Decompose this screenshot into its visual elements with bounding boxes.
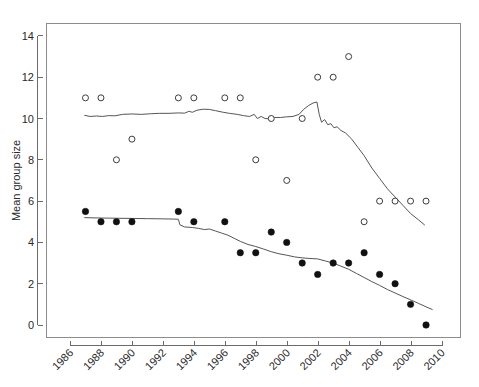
x-axis: 1986198819901992199419961998200020022004… — [50, 341, 447, 373]
data-point-open — [253, 157, 259, 163]
data-point-open — [377, 198, 383, 204]
data-point-filled — [284, 239, 290, 245]
y-axis-tick-label: 6 — [28, 195, 34, 207]
lower-trend-line — [85, 218, 433, 310]
data-point-open — [299, 116, 305, 122]
data-points — [82, 54, 429, 329]
data-point-open — [129, 136, 135, 142]
y-axis-tick-label: 14 — [22, 30, 34, 42]
x-axis-tick-label: 1996 — [204, 346, 230, 372]
x-axis-tick-label: 2004 — [328, 346, 354, 372]
x-axis-tick-label: 2000 — [266, 346, 292, 372]
y-axis-tick-label: 2 — [28, 278, 34, 290]
x-axis-tick-label: 2010 — [421, 346, 447, 372]
data-point-filled — [299, 260, 305, 266]
data-point-filled — [376, 271, 382, 277]
plot-panel-rect — [47, 24, 461, 338]
data-point-filled — [175, 208, 181, 214]
data-point-open — [284, 177, 290, 183]
data-point-open — [361, 219, 367, 225]
data-point-filled — [253, 250, 259, 256]
data-point-filled — [268, 229, 274, 235]
data-point-filled — [237, 250, 243, 256]
x-axis-tick-label: 1998 — [235, 346, 261, 372]
upper-trend-line — [85, 102, 425, 225]
data-point-open — [113, 157, 119, 163]
plot-panel-border — [47, 24, 461, 338]
y-axis-tick-label: 12 — [22, 71, 34, 83]
data-point-filled — [423, 322, 429, 328]
data-point-filled — [361, 250, 367, 256]
data-point-filled — [129, 219, 135, 225]
data-point-open — [408, 198, 414, 204]
data-point-filled — [98, 219, 104, 225]
data-point-open — [222, 95, 228, 101]
x-axis-tick-label: 2002 — [297, 346, 323, 372]
x-axis-tick-label: 1994 — [173, 346, 199, 372]
data-point-open — [423, 198, 429, 204]
data-point-open — [346, 54, 352, 60]
data-point-open — [392, 198, 398, 204]
y-axis-tick-label: 0 — [28, 319, 34, 331]
y-axis-title: Mean group size — [10, 140, 22, 221]
x-axis-tick-label: 2008 — [390, 346, 416, 372]
data-point-filled — [222, 219, 228, 225]
x-axis-tick-label: 1986 — [50, 346, 76, 372]
y-axis: 02468101214 — [22, 30, 43, 331]
y-axis-tick-label: 8 — [28, 154, 34, 166]
x-axis-tick-label: 1988 — [81, 346, 107, 372]
data-point-open — [315, 74, 321, 80]
x-axis-tick-label: 2006 — [359, 346, 385, 372]
data-point-open — [330, 74, 336, 80]
data-point-filled — [392, 281, 398, 287]
x-axis-tick-label: 1992 — [142, 346, 168, 372]
y-axis-tick-label: 4 — [28, 236, 34, 248]
data-point-filled — [314, 271, 320, 277]
data-point-open — [82, 95, 88, 101]
y-axis-tick-label: 10 — [22, 113, 34, 125]
data-point-open — [237, 95, 243, 101]
data-point-filled — [345, 260, 351, 266]
scatter-plot-svg: 02468101214 1986198819901992199419961998… — [0, 0, 479, 387]
data-point-open — [191, 95, 197, 101]
data-point-filled — [82, 208, 88, 214]
data-point-open — [268, 116, 274, 122]
data-point-filled — [113, 219, 119, 225]
x-axis-tick-label: 1990 — [112, 346, 138, 372]
trend-lines — [85, 102, 433, 310]
data-point-filled — [330, 260, 336, 266]
data-point-open — [98, 95, 104, 101]
data-point-open — [175, 95, 181, 101]
y-axis-title-text: Mean group size — [10, 140, 22, 221]
data-point-filled — [407, 301, 413, 307]
data-point-filled — [191, 219, 197, 225]
chart-figure: 02468101214 1986198819901992199419961998… — [0, 0, 479, 387]
